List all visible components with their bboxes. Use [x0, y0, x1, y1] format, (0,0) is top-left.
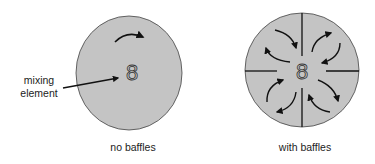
- tank-with-baffles: 8: [245, 13, 359, 127]
- caption-with-baffles: with baffles: [265, 141, 345, 154]
- impeller-icon: 8: [296, 59, 308, 84]
- impeller-icon: 8: [126, 60, 138, 85]
- caption-no-baffles: no baffles: [98, 141, 168, 154]
- tank-no-baffles: 8: [63, 16, 182, 130]
- callout-line-2: element: [20, 87, 58, 100]
- callout-line-1: mixing: [20, 74, 58, 87]
- callout-label: mixing element: [20, 74, 58, 100]
